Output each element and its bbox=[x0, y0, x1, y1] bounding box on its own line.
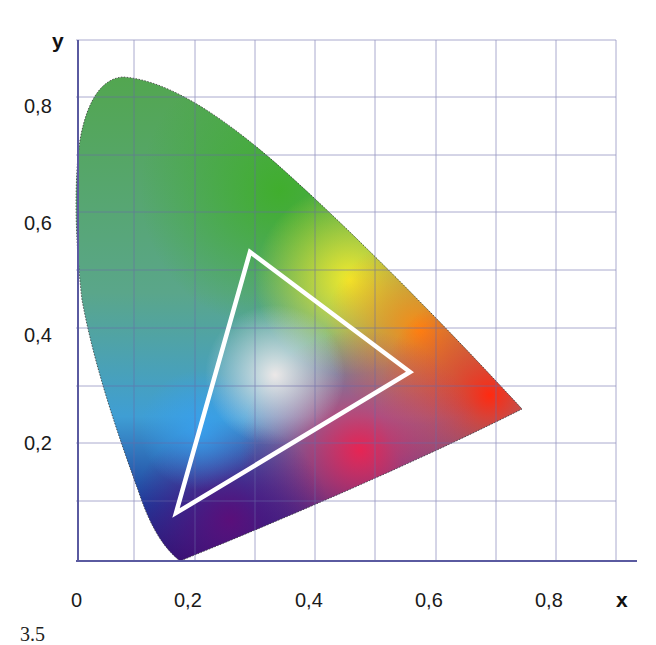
y-tick-0-8: 0,8 bbox=[24, 95, 52, 117]
figure-number: 3.5 bbox=[20, 624, 45, 644]
x-tick-0-2: 0,2 bbox=[174, 589, 202, 611]
spectral-locus-fill bbox=[70, 70, 530, 565]
x-tick-0: 0 bbox=[71, 589, 82, 611]
x-tick-0-4: 0,4 bbox=[295, 589, 323, 611]
y-tick-0-6: 0,6 bbox=[24, 212, 52, 234]
x-tick-0-6: 0,6 bbox=[415, 589, 443, 611]
y-axis-label: y bbox=[52, 29, 64, 52]
x-tick-0-8: 0,8 bbox=[535, 589, 563, 611]
x-axis-label: x bbox=[616, 588, 628, 611]
chromaticity-chart: y x 0,2 0,4 0,6 0,8 0 0,2 0,4 0,6 0,8 bbox=[0, 0, 656, 645]
y-tick-0-4: 0,4 bbox=[24, 324, 52, 346]
y-tick-0-2: 0,2 bbox=[24, 432, 52, 454]
